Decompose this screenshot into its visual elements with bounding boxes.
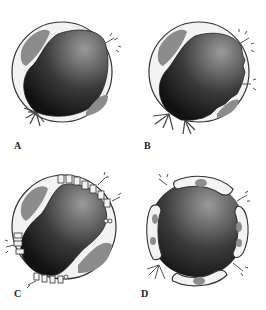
panel-a: A	[0, 0, 133, 155]
panel-label-d: D	[141, 288, 148, 299]
capillary-illustration-a	[0, 0, 133, 155]
panel-label-b: B	[144, 140, 151, 151]
capillary-illustration-c	[0, 155, 133, 310]
panel-c: C	[0, 155, 133, 310]
panel-label-c: C	[14, 288, 21, 299]
capillary-illustration-d	[133, 155, 266, 310]
capillary-illustration-b	[133, 0, 266, 155]
panel-b: B	[133, 0, 266, 155]
panel-label-a: A	[14, 140, 21, 151]
panel-d: D	[133, 155, 266, 310]
